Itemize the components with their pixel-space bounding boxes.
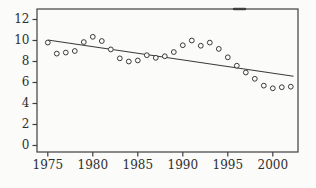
data-point xyxy=(234,63,239,68)
data-point xyxy=(162,54,167,59)
data-point xyxy=(81,40,86,45)
data-point xyxy=(126,59,131,64)
data-point xyxy=(279,85,284,90)
data-point xyxy=(90,34,95,39)
data-point xyxy=(261,83,266,88)
x-tick-label: 1985 xyxy=(123,158,154,172)
x-tick-label: 1995 xyxy=(213,158,244,172)
data-point xyxy=(243,70,248,75)
data-point xyxy=(171,50,176,55)
y-tick-label: 12 xyxy=(14,12,29,26)
data-point xyxy=(72,49,77,54)
data-point xyxy=(135,58,140,63)
y-tick-label: 2 xyxy=(22,117,30,131)
plot-frame xyxy=(37,9,298,152)
data-point xyxy=(117,56,122,61)
data-point xyxy=(225,55,230,60)
scatter-plot-svg: 024681012197519801985199019952000 xyxy=(0,0,316,188)
data-point xyxy=(180,43,185,48)
data-point xyxy=(252,76,257,81)
data-point xyxy=(108,47,113,52)
data-point xyxy=(216,46,221,51)
trend-line xyxy=(48,40,294,76)
data-point xyxy=(270,86,275,91)
y-tick-label: 0 xyxy=(22,138,30,152)
data-point xyxy=(153,55,158,60)
data-point xyxy=(99,39,104,44)
y-tick-label: 10 xyxy=(14,33,29,47)
y-tick-label: 8 xyxy=(22,54,30,68)
time-series-scatter-chart: 024681012197519801985199019952000 xyxy=(0,0,316,188)
x-tick-label: 1980 xyxy=(78,158,109,172)
data-point xyxy=(189,38,194,43)
x-tick-label: 2000 xyxy=(258,158,289,172)
data-point xyxy=(207,40,212,45)
y-tick-label: 6 xyxy=(22,75,30,89)
data-point xyxy=(198,43,203,48)
y-tick-label: 4 xyxy=(22,96,30,110)
data-point xyxy=(63,50,68,55)
data-point xyxy=(144,53,149,58)
data-point xyxy=(54,51,59,56)
data-point xyxy=(45,40,50,45)
data-point xyxy=(288,84,293,89)
x-tick-label: 1975 xyxy=(33,158,64,172)
x-tick-label: 1990 xyxy=(168,158,199,172)
